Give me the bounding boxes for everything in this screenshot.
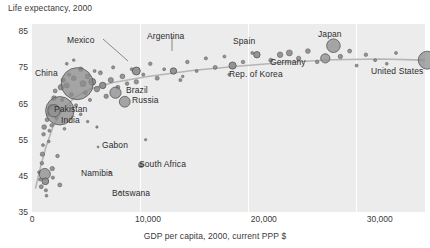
data-point-bubble (286, 50, 292, 56)
data-point-bubble (96, 126, 98, 128)
data-point-bubble (179, 78, 182, 81)
point-label: South Africa (139, 159, 186, 169)
point-label: Spain (233, 36, 255, 46)
data-point-bubble (98, 71, 102, 75)
data-point-bubble (155, 76, 159, 80)
data-point-bubble (306, 49, 311, 54)
data-point-bubble (112, 66, 115, 69)
data-point-bubble (241, 60, 245, 64)
data-point-bubble (48, 129, 51, 132)
data-point-bubble (148, 62, 152, 66)
data-point-bubble (40, 161, 44, 165)
y-tick-label: 65 (2, 99, 28, 109)
point-label: Namibia (81, 168, 113, 178)
data-point-bubble (327, 39, 341, 53)
data-point-bubble (58, 183, 62, 187)
data-point-bubble (223, 55, 226, 58)
data-point-bubble (321, 54, 330, 63)
point-label: Russia (132, 95, 159, 105)
data-point-bubble (251, 51, 254, 54)
point-label: India (61, 115, 80, 125)
data-point-bubble (47, 140, 50, 143)
life-expectancy-gdp-scatter-chart: Life expectancy, 2000 857565554535 010,0… (0, 0, 430, 248)
data-point-bubble (56, 154, 60, 158)
data-point-bubble (100, 82, 106, 88)
y-tick-label: 45 (2, 171, 28, 181)
data-point-bubble (88, 98, 91, 101)
data-point-bubble (315, 60, 319, 64)
y-tick-label: 85 (2, 26, 28, 36)
data-point-bubble (42, 125, 47, 130)
point-label: China (35, 68, 58, 78)
data-point-bubble (385, 62, 388, 65)
x-tick-label: 20,000 (234, 214, 294, 224)
data-point-bubble (63, 127, 66, 130)
point-label: Mexico (67, 35, 95, 45)
data-point-bubble (254, 52, 260, 58)
x-tick-label: 10,000 (118, 214, 178, 224)
data-point-bubble (86, 120, 89, 123)
data-point-bubble (364, 53, 368, 57)
data-point-bubble (61, 68, 93, 100)
data-point-bubble (97, 146, 99, 148)
data-point-bubble (65, 62, 68, 65)
point-label: Gabon (102, 140, 128, 150)
data-point-bubble (104, 94, 108, 98)
data-point-bubble (44, 189, 47, 192)
point-label: Brazil (126, 85, 148, 95)
data-point-bubble (132, 67, 140, 75)
data-point-bubble (45, 194, 48, 197)
data-point-bubble (110, 87, 121, 98)
data-point-bubble (374, 59, 377, 62)
point-label: United States (371, 66, 423, 76)
data-point-bubble (53, 89, 57, 93)
y-tick-label: 75 (2, 62, 28, 72)
data-point-bubble (108, 77, 113, 82)
point-label: Rep. of Korea (229, 69, 283, 79)
data-point-bubble (50, 123, 54, 127)
data-point-bubble (119, 96, 130, 107)
point-label: Germany (270, 57, 306, 67)
data-point-bubble (142, 73, 145, 76)
data-point-bubble (120, 74, 125, 79)
data-point-bubble (213, 65, 217, 69)
point-label: Japan (318, 29, 342, 39)
data-point-bubble (93, 70, 96, 73)
data-point-bubble (338, 54, 342, 58)
data-point-bubble (42, 178, 49, 185)
data-point-bubble (170, 68, 176, 74)
data-point-bubble (181, 75, 184, 78)
data-point-bubble (204, 57, 207, 60)
x-tick-label: 30,000 (350, 214, 410, 224)
data-point-bubble (94, 86, 100, 92)
point-label: Pakistan (54, 104, 87, 114)
leader-line (103, 39, 128, 61)
data-point-bubble (395, 51, 398, 54)
data-point-bubble (134, 80, 138, 84)
data-point-bubble (144, 138, 146, 140)
data-point-bubble (42, 144, 45, 147)
data-point-bubble (195, 70, 198, 73)
data-point-bubble (186, 60, 190, 64)
point-label: Botswana (112, 188, 150, 198)
data-point-bubble (50, 166, 54, 170)
point-label: Argentina (147, 31, 184, 41)
data-point-bubble (163, 68, 166, 71)
data-point-bubble (51, 176, 54, 179)
x-axis-title: GDP per capita, 2000, current PPP $ (0, 231, 430, 241)
data-point-bubble (348, 49, 352, 53)
x-tick-label: 0 (2, 214, 62, 224)
data-point-bubble (72, 59, 75, 62)
data-point-bubble (42, 132, 46, 136)
data-point-bubble (355, 64, 358, 67)
data-point-bubble (40, 152, 44, 156)
y-tick-label: 55 (2, 135, 28, 145)
data-point-bubble (39, 185, 43, 189)
